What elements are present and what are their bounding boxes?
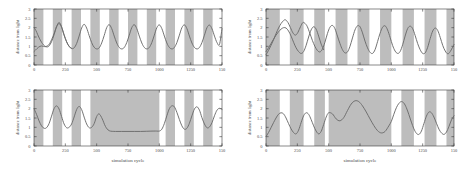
y-tick-label: 3 [260,88,263,93]
x-tick-label: 750 [357,148,364,153]
band [314,90,325,146]
y-axis-label: distance from light [247,100,252,135]
chart-panel-bottom-left: 00.511.522.53025050075010001250150simula… [0,0,232,172]
x-tick-label: 1000 [387,148,397,153]
x-tick-label: 150 [451,148,458,153]
x-tick-label: 1250 [418,148,428,153]
band [53,90,62,146]
x-tick-label: 150 [219,148,226,153]
y-axis-label: distance from light [15,100,20,135]
y-tick-label: 0 [28,144,31,149]
x-axis-label: simulation cycle [344,158,378,163]
band [290,90,304,146]
y-tick-label: 0.5 [257,134,263,139]
x-tick-label: 1250 [186,148,196,153]
band [401,90,414,146]
x-tick-label: 0 [265,148,268,153]
plot-area-bottom-left: 00.511.522.53025050075010001250150simula… [0,0,232,172]
x-tick-label: 250 [62,148,69,153]
band [203,90,212,146]
band [72,90,81,146]
y-tick-label: 0 [260,144,263,149]
y-tick-label: 2 [28,106,30,111]
band [329,90,392,146]
y-tick-label: 2.5 [257,97,263,102]
plot-area-bottom-right: 00.511.522.53025050075010001250150simula… [232,0,464,172]
x-axis-label: simulation cycle [112,158,146,163]
band [166,90,175,146]
y-tick-label: 1.5 [25,116,31,121]
x-tick-label: 500 [93,148,100,153]
y-tick-label: 2.5 [25,97,31,102]
chart-panel-bottom-right: 00.511.522.53025050075010001250150simula… [232,0,464,172]
x-tick-label: 500 [325,148,332,153]
x-tick-label: 0 [33,148,36,153]
band [90,90,159,146]
y-tick-label: 1.5 [257,116,263,121]
figure-panel-grid: 00.511.522.53025050075010001250150distan… [0,0,464,172]
y-tick-label: 1 [28,125,30,130]
x-tick-label: 750 [125,148,132,153]
dark-phase-bands [34,90,213,146]
y-tick-label: 1 [260,125,262,130]
y-tick-label: 0.5 [25,134,31,139]
band [184,90,193,146]
y-tick-label: 3 [28,88,31,93]
x-tick-label: 250 [294,148,301,153]
x-tick-label: 1000 [155,148,165,153]
y-tick-label: 2 [260,106,262,111]
